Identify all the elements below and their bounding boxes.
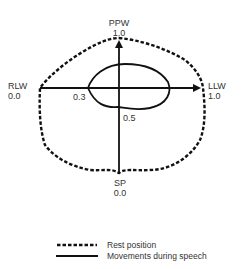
- rest-position-outline: [40, 38, 205, 173]
- legend-label-speech: Movements during speech: [107, 251, 207, 261]
- legend-label-rest: Rest position: [107, 240, 156, 250]
- speech-movement-loop: [88, 64, 169, 109]
- axis-value-rlw: 0.0: [8, 91, 21, 101]
- velopharyngeal-diagram: PPW 1.0 RLW 0.0 LLW 1.0 SP 0.0 0.3 0.5 R…: [0, 0, 242, 269]
- axis-value-llw: 1.0: [208, 91, 221, 101]
- axis-label-llw: LLW: [208, 81, 226, 91]
- axis-value-ppw: 1.0: [113, 28, 126, 38]
- axis-label-ppw: PPW: [109, 18, 130, 28]
- axis-label-rlw: RLW: [8, 81, 28, 91]
- axis-label-sp: SP: [114, 178, 126, 188]
- axis-value-sp: 0.0: [114, 188, 127, 198]
- inner-label-bottom: 0.5: [123, 113, 136, 123]
- inner-label-left: 0.3: [73, 92, 86, 102]
